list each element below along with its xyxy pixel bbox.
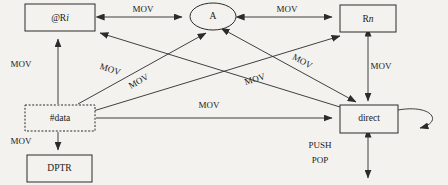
diagram-svg: MOV MOV MOV MOV MOV MOV MO <box>0 0 448 185</box>
edge-label-push: PUSH <box>308 140 332 150</box>
edge-label-mov: MOV <box>132 4 154 14</box>
edge-line <box>228 32 356 102</box>
edge-at-ri-to-a: MOV <box>104 4 182 17</box>
edge-label-mov: MOV <box>10 59 32 69</box>
edge-label-mov: MOV <box>127 71 151 90</box>
edge-hdata-to-at-ri: MOV <box>10 39 58 104</box>
node-label-at-ri: @Ri <box>51 13 69 23</box>
edge-label-pop: POP <box>312 155 329 165</box>
edge-label-mov: MOV <box>276 4 298 14</box>
edge-direct-to-at-ri: MOV <box>99 33 340 107</box>
node-label-dptr: DPTR <box>47 163 72 173</box>
node-label-rn: Rn <box>362 14 373 24</box>
node-a[interactable]: A <box>190 3 236 30</box>
edge-label-mov: MOV <box>198 100 220 110</box>
node-hdata[interactable]: #data <box>25 105 95 131</box>
node-rn[interactable]: Rn <box>340 5 396 32</box>
edge-label-mov: MOV <box>243 71 266 87</box>
edge-label-mov: MOV <box>370 61 392 71</box>
edge-direct-push-pop: PUSH POP <box>308 137 368 178</box>
node-label-direct: direct <box>358 113 380 123</box>
node-label-hdata: #data <box>50 113 71 123</box>
edge-rn-to-direct: MOV <box>368 36 392 101</box>
edge-hdata-to-a: MOV <box>78 33 206 104</box>
node-dptr[interactable]: DPTR <box>27 155 92 182</box>
edge-line <box>78 33 206 104</box>
edge-label-mov: MOV <box>10 136 32 146</box>
edge-line <box>398 109 433 128</box>
edge-a-to-rn: MOV <box>244 4 332 17</box>
edge-hdata-to-direct: MOV <box>96 100 332 118</box>
node-label-a: A <box>210 11 217 21</box>
node-at-ri[interactable]: @Ri <box>25 4 95 31</box>
node-direct[interactable]: direct <box>340 105 398 133</box>
diagram-canvas: MOV MOV MOV MOV MOV MOV MO <box>0 0 448 185</box>
edge-line <box>100 33 340 107</box>
edge-a-to-direct: MOV <box>228 32 356 102</box>
edge-hdata-to-dptr: MOV <box>10 132 58 150</box>
edge-direct-self-loop <box>398 109 433 128</box>
edge-label-mov: MOV <box>99 61 123 77</box>
